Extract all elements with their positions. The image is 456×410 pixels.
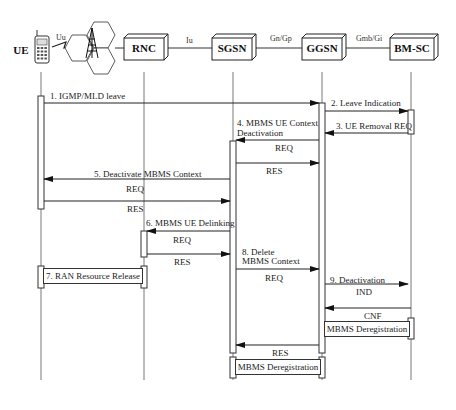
ue-label: UE bbox=[8, 44, 34, 56]
ggsn-label: GGSN bbox=[302, 42, 342, 54]
rnc-label: RNC bbox=[124, 42, 164, 54]
ran-resource-release-box: 7. RAN Resource Release bbox=[43, 268, 143, 284]
sgsn-activation bbox=[230, 141, 236, 353]
mobile-phone-icon bbox=[35, 30, 49, 63]
mbms-deregistration-sgsn-box: MBMS Deregistration bbox=[235, 359, 321, 375]
msg9-label: 9. Deactivation bbox=[330, 275, 385, 285]
ggsn-activation bbox=[319, 103, 325, 353]
mbms-deregistration-bmsc-box: MBMS Deregistration bbox=[324, 321, 410, 337]
msg9-ind-label: IND bbox=[356, 287, 372, 297]
ue-activation bbox=[38, 96, 44, 209]
msg4-req-label: REQ bbox=[275, 143, 293, 153]
msg6-res-label: RES bbox=[174, 257, 191, 267]
msg4-label-line2: Deactivation bbox=[237, 128, 283, 138]
msg6-label: 6. MBMS UE Delinking bbox=[146, 218, 235, 228]
msg1-label: 1. IGMP/MLD leave bbox=[50, 91, 125, 101]
gn-gp-interface-label: Gn/Gp bbox=[270, 34, 292, 43]
msg5-label: 5. Deactivate MBMS Context bbox=[94, 169, 202, 179]
msg2-label: 2. Leave Indication bbox=[331, 98, 401, 108]
rnc-activation bbox=[141, 231, 147, 257]
msg4-label-line1: 4. MBMS UE Context bbox=[237, 118, 318, 128]
msg5-req-label: REQ bbox=[126, 184, 144, 194]
gmb-gi-interface-label: Gmb/Gi bbox=[356, 34, 382, 43]
sequence-diagram-canvas bbox=[0, 0, 456, 410]
iu-interface-label: Iu bbox=[186, 36, 193, 45]
sgsn-label: SGSN bbox=[212, 42, 252, 54]
msg3-label: 3. UE Removal REQ bbox=[336, 121, 412, 131]
msg9-cnf-label: CNF bbox=[364, 311, 382, 321]
msg8-res-label: RES bbox=[272, 348, 289, 358]
bmsc-label: BM-SC bbox=[390, 42, 434, 54]
msg6-req-label: REQ bbox=[173, 235, 191, 245]
msg4-res-label: RES bbox=[266, 166, 283, 176]
cell-hexagons-icon bbox=[65, 22, 115, 74]
msg8-req-label: REQ bbox=[265, 273, 283, 283]
msg8-label-line2: MBMS Context bbox=[242, 256, 300, 266]
msg5-res-label: RES bbox=[127, 204, 144, 214]
uu-interface-label: Uu bbox=[56, 33, 66, 42]
